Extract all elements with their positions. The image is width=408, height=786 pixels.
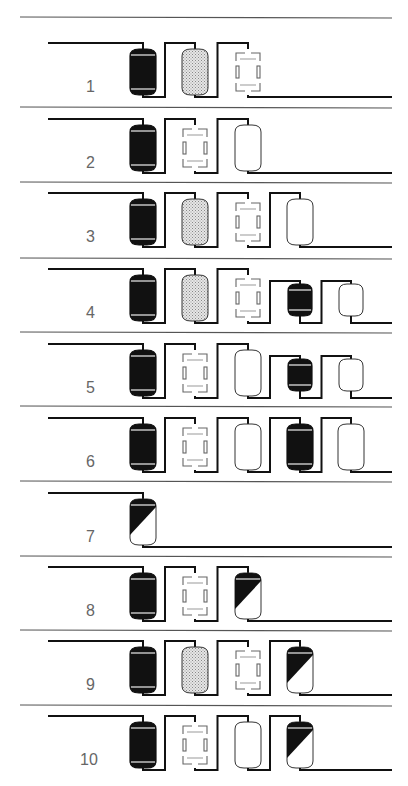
degasser-inner-icon [187,135,203,161]
degasser-side-icon [257,216,260,228]
inlet-pipe [48,344,143,350]
inlet-pipe [48,119,143,125]
row-separator [20,332,392,333]
degasser-side-icon [183,590,186,602]
degasser-side-icon [236,216,239,228]
row-number-label: 5 [86,380,95,396]
degasser-bottom-bracket-icon [236,83,260,91]
degasser-side-icon [183,142,186,154]
row-separator [20,406,392,407]
degasser-bottom-bracket-icon [183,159,207,167]
degasser-inner-icon [240,657,256,683]
outlet-pipe [248,95,392,97]
row-number-label: 10 [80,752,98,768]
row-number-label: 8 [86,603,95,619]
degasser-bottom-bracket-icon [236,309,260,317]
inlet-pipe [48,716,143,722]
degasser-inner-icon [240,285,256,311]
cation-vessel-icon [287,424,313,470]
anion-vessel-icon [339,284,363,316]
degasser-side-icon [236,664,239,676]
cation-vessel-icon [288,359,312,391]
cation-vessel-icon [130,722,156,768]
degasser-bottom-bracket-icon [183,756,207,764]
degasser-inner-icon [240,59,256,85]
row-separator [20,182,392,183]
degasser-side-icon [257,292,260,304]
degasser-inner-icon [187,732,203,758]
anion-vessel-icon [235,350,261,396]
cation-vessel-icon [130,350,156,396]
degasser-side-icon [204,142,207,154]
degasser-top-bracket-icon [183,129,207,137]
degasser-top-bracket-icon [236,279,260,287]
row-number-label: 3 [86,229,95,245]
outlet-pipe [351,391,392,398]
row-separator [20,705,392,706]
weak-anion-vessel-icon [182,199,208,245]
degasser-inner-icon [187,360,203,386]
anion-vessel-icon [339,359,363,391]
cation-vessel-icon [288,284,312,316]
outlet-pipe [300,768,392,770]
degasser-side-icon [183,367,186,379]
degasser-inner-icon [187,434,203,460]
weak-anion-vessel-icon [182,49,208,95]
outlet-pipe [143,545,392,547]
outlet-pipe [300,693,392,695]
degasser-inner-icon [187,583,203,609]
cation-vessel-icon [130,275,156,321]
row-number-label: 9 [86,677,95,693]
degasser-side-icon [257,664,260,676]
row-number-label: 7 [86,529,95,545]
inlet-pipe [48,418,143,424]
degasser-side-icon [204,441,207,453]
degasser-side-icon [236,66,239,78]
degasser-top-bracket-icon [183,428,207,436]
outlet-pipe [248,619,392,621]
degasser-bottom-bracket-icon [183,458,207,466]
degasser-side-icon [183,441,186,453]
degasser-inner-icon [240,209,256,235]
weak-anion-vessel-icon [182,647,208,693]
inlet-pipe [48,43,143,49]
inlet-pipe [48,567,143,573]
row-separator [20,107,392,108]
degasser-top-bracket-icon [236,203,260,211]
row-separator [20,630,392,631]
process-flow-diagram [0,0,408,786]
degasser-top-bracket-icon [183,726,207,734]
degasser-side-icon [204,739,207,751]
cation-vessel-icon [130,199,156,245]
degasser-top-bracket-icon [236,53,260,61]
weak-anion-vessel-icon [182,275,208,321]
row-separator [20,556,392,557]
inlet-pipe [48,269,143,275]
outlet-pipe [300,245,392,247]
cation-vessel-icon [130,573,156,619]
row-number-label: 6 [86,454,95,470]
row-number-label: 1 [86,79,95,95]
anion-vessel-icon [235,125,261,171]
degasser-top-bracket-icon [183,577,207,585]
degasser-top-bracket-icon [236,651,260,659]
row-separator [20,258,392,259]
degasser-side-icon [183,739,186,751]
degasser-bottom-bracket-icon [183,607,207,615]
degasser-top-bracket-icon [183,354,207,362]
anion-vessel-icon [235,722,261,768]
cation-vessel-icon [130,125,156,171]
degasser-bottom-bracket-icon [183,384,207,392]
anion-vessel-icon [287,199,313,245]
row-separator [20,17,392,18]
degasser-side-icon [204,590,207,602]
degasser-side-icon [204,367,207,379]
inlet-pipe [48,493,143,499]
row-number-label: 2 [86,155,95,171]
row-number-label: 4 [86,305,95,321]
cation-vessel-icon [130,49,156,95]
outlet-pipe [248,171,392,173]
inlet-pipe [48,193,143,199]
inlet-pipe [48,641,143,647]
degasser-side-icon [257,66,260,78]
